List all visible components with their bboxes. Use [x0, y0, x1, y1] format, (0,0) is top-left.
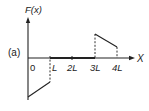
- y-axis-arrow-icon: [26, 17, 30, 23]
- tick-label-L: L: [52, 62, 57, 73]
- y-axis-label: F(x): [25, 4, 42, 15]
- tick-label-3L: 3L: [90, 62, 101, 73]
- x-axis-label: X: [136, 53, 144, 64]
- x-axis: [28, 56, 135, 60]
- segment-3L-to-4L: [95, 34, 117, 47]
- tick-label-0: 0: [30, 62, 35, 73]
- panel-label: (a): [8, 47, 20, 58]
- x-axis-arrow-icon: [129, 56, 135, 60]
- tick-label-2L: 2L: [66, 62, 78, 73]
- force-graph: (a) F(x) X 0 L 2L 3L 4L: [0, 0, 149, 111]
- segment-0-to-L: [28, 82, 50, 97]
- tick-label-4L: 4L: [112, 62, 123, 73]
